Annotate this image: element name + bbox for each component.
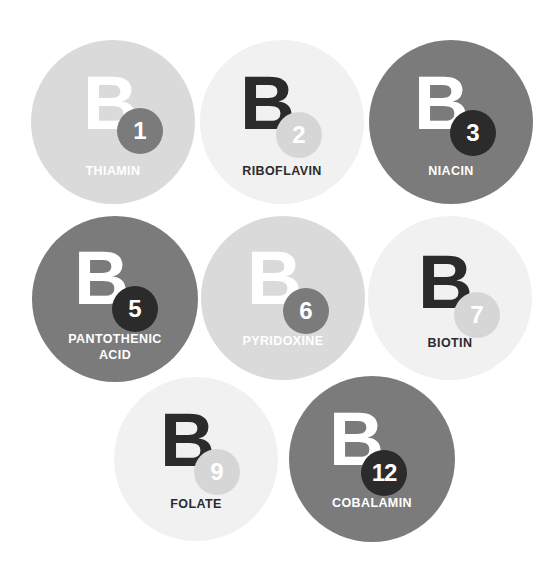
vitamin-b3-badge: B 3 NIACIN	[369, 40, 533, 204]
vitamin-number: 2	[276, 112, 322, 158]
vitamin-name: THIAMIN	[31, 164, 195, 180]
vitamin-b12-badge: B 12 COBALAMIN	[289, 376, 455, 542]
vitamin-name: BIOTIN	[368, 336, 532, 352]
vitamin-name-line2: ACID	[32, 348, 198, 364]
vitamin-b5-badge: B 5 PANTOTHENIC ACID	[32, 216, 198, 382]
vitamin-number: 6	[283, 288, 329, 334]
vitamin-number: 5	[112, 286, 158, 332]
vitamin-b7-badge: B 7 BIOTIN	[368, 216, 532, 380]
vitamin-b6-badge: B 6 PYRIDOXINE	[201, 216, 365, 380]
vitamin-number: 7	[454, 292, 500, 338]
vitamin-number: 9	[194, 449, 240, 495]
vitamin-b2-badge: B 2 RIBOFLAVIN	[200, 40, 364, 204]
vitamin-name: RIBOFLAVIN	[200, 164, 364, 180]
vitamin-number: 1	[117, 108, 163, 154]
vitamin-name-line1: PANTOTHENIC	[32, 332, 198, 348]
vitamin-name: PANTOTHENIC ACID	[32, 332, 198, 363]
vitamin-name: COBALAMIN	[289, 496, 455, 512]
vitamin-name: NIACIN	[369, 164, 533, 180]
vitamin-name: PYRIDOXINE	[201, 334, 365, 350]
vitamin-number: 3	[450, 110, 496, 156]
vitamin-b1-badge: B 1 THIAMIN	[31, 40, 195, 204]
vitamin-b9-badge: B 9 FOLATE	[114, 377, 278, 541]
vitamin-name: FOLATE	[114, 497, 278, 513]
vitamin-number: 12	[361, 450, 407, 496]
